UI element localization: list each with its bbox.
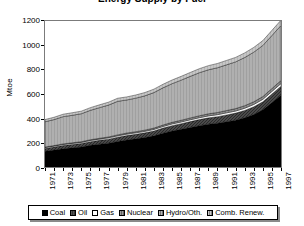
x-tick-mark [217,168,218,171]
x-tick-label: 1997 [284,172,293,190]
legend-item[interactable]: Comb. Renew. [207,208,264,217]
x-tick-mark [154,168,155,171]
x-tick-mark [199,168,200,171]
legend-label: Comb. Renew. [215,208,264,217]
x-tick-mark [63,168,64,171]
x-tick-label: 1991 [230,172,239,190]
legend-item[interactable]: Oil [70,208,87,217]
legend-label: Oil [78,208,87,217]
x-tick-mark [136,168,137,171]
x-tick-mark [81,168,82,171]
legend-swatch-nuclear [119,210,125,216]
x-tick-mark [127,168,128,171]
x-tick-label: 1983 [157,172,166,190]
x-tick-label: 1973 [66,172,75,190]
chart-title: Energy Supply by Fuel [0,0,304,4]
legend-label: Coal [50,208,65,217]
x-tick-mark [145,168,146,171]
x-tick-mark [72,168,73,171]
legend-item[interactable]: Hydro/Oth. [158,208,202,217]
y-tick-mark [41,168,44,169]
legend-label: Hydro/Oth. [166,208,202,217]
x-tick-mark [263,168,264,171]
x-tick-mark [281,168,282,171]
y-tick-label: 400 [6,114,40,123]
y-tick-label: 200 [6,139,40,148]
x-tick-label: 1995 [266,172,275,190]
chart-container: Energy Supply by Fuel Mtoe 1200100080060… [0,0,304,226]
y-axis-ticks: 120010008006004002000 [4,0,40,226]
x-tick-label: 1993 [248,172,257,190]
x-tick-mark [118,168,119,171]
x-tick-mark [245,168,246,171]
x-tick-mark [272,168,273,171]
x-tick-mark [208,168,209,171]
x-tick-mark [45,168,46,171]
legend-label: Nuclear [127,208,153,217]
x-tick-mark [236,168,237,171]
legend-item[interactable]: Coal [42,208,65,217]
legend-label: Gas [100,208,114,217]
stacked-area-series [45,21,281,167]
legend-swatch-gas [92,210,98,216]
y-tick-label: 1000 [6,40,40,49]
chart-legend: CoalOilGasNuclearHydro/Oth.Comb. Renew. [28,205,278,220]
x-tick-mark [90,168,91,171]
x-tick-mark [181,168,182,171]
x-tick-mark [190,168,191,171]
y-tick-label: 0 [6,164,40,173]
x-tick-label: 1975 [84,172,93,190]
legend-swatch-comb-renew [207,210,213,216]
x-tick-label: 1987 [193,172,202,190]
x-tick-mark [172,168,173,171]
legend-swatch-coal [42,210,48,216]
legend-item[interactable]: Nuclear [119,208,153,217]
x-tick-label: 1979 [121,172,130,190]
y-tick-label: 1200 [6,16,40,25]
x-tick-mark [54,168,55,171]
x-tick-label: 1971 [48,172,57,190]
x-tick-mark [109,168,110,171]
legend-item[interactable]: Gas [92,208,114,217]
x-tick-label: 1985 [175,172,184,190]
legend-swatch-hydro-oth [158,210,164,216]
x-tick-mark [254,168,255,171]
x-tick-mark [227,168,228,171]
y-tick-label: 800 [6,65,40,74]
x-tick-label: 1989 [211,172,220,190]
legend-swatch-oil [70,210,76,216]
x-tick-label: 1981 [139,172,148,190]
x-tick-mark [163,168,164,171]
x-tick-mark [99,168,100,171]
x-tick-label: 1977 [102,172,111,190]
plot-area [44,20,282,168]
y-tick-label: 600 [6,90,40,99]
